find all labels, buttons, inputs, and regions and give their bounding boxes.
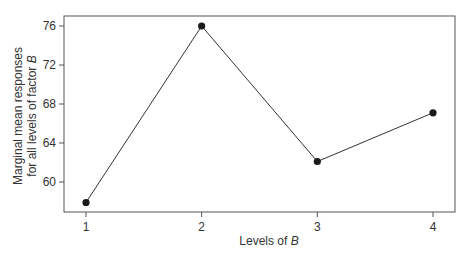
y-tick-label: 60	[43, 175, 57, 189]
data-markers	[82, 22, 436, 206]
y-axis-ticks: 6064687276	[43, 19, 64, 189]
x-tick-label: 2	[198, 220, 205, 234]
line-chart: 6064687276 1234 Levels of B Marginal mea…	[0, 0, 467, 254]
y-axis-label-line2: for all levels of factor B	[25, 55, 39, 176]
y-tick-label: 64	[43, 136, 57, 150]
x-axis-label: Levels of B	[239, 234, 298, 248]
data-point	[198, 22, 205, 29]
series-line	[86, 26, 433, 202]
data-point	[82, 199, 89, 206]
y-tick-label: 76	[43, 19, 57, 33]
plot-frame	[64, 16, 455, 212]
x-tick-label: 4	[430, 220, 437, 234]
y-axis-label-line1: Marginal mean responses	[11, 47, 25, 185]
y-tick-label: 68	[43, 97, 57, 111]
data-point	[429, 109, 436, 116]
x-tick-label: 3	[314, 220, 321, 234]
x-tick-label: 1	[83, 220, 90, 234]
data-point	[314, 158, 321, 165]
y-tick-label: 72	[43, 58, 57, 72]
x-axis-ticks: 1234	[83, 212, 437, 234]
y-axis-label: Marginal mean responses for all levels o…	[11, 47, 39, 185]
